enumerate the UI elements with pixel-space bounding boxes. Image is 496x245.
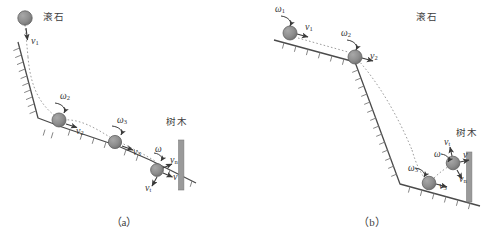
caption-a: （a） xyxy=(0,213,248,229)
tree-b xyxy=(467,152,472,202)
rock-position-1-a xyxy=(18,11,32,25)
panel-b: 滚石 树木 ω1 v1 ω2 v2 ω3 v3 ω vt v vn （b） xyxy=(248,0,496,245)
slope-hatching-a xyxy=(13,48,192,187)
rock-position-1-b xyxy=(283,26,297,40)
rock-position-2-b xyxy=(348,50,362,64)
rock-position-4-a xyxy=(151,164,164,177)
rock-position-2-a xyxy=(52,113,66,127)
rock-position-3-b xyxy=(422,176,436,190)
panel-b-drawing xyxy=(248,0,496,245)
rock-position-3-a xyxy=(108,135,121,148)
tree-a xyxy=(179,140,184,190)
slope-hatching-b xyxy=(282,43,470,209)
trajectory-b xyxy=(298,38,451,180)
caption-b: （b） xyxy=(248,213,496,229)
spin-arrows-a xyxy=(55,103,162,161)
panel-a-drawing xyxy=(0,0,248,245)
panel-a: 滚石 树木 v1 ω2 v2 ω3 v3 ω vn v vt （a） xyxy=(0,0,248,245)
trajectory-a xyxy=(25,25,155,161)
slope-profile-b xyxy=(274,40,480,209)
velocity-arrows-b xyxy=(297,34,469,187)
rockfall-figure: 滚石 树木 v1 ω2 v2 ω3 v3 ω vn v vt （a） xyxy=(0,0,496,245)
velocity-arrows-a xyxy=(26,28,173,186)
